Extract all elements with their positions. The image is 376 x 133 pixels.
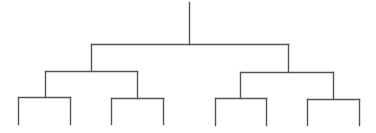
tree-diagram (0, 0, 376, 133)
tree-diagram-svg (0, 0, 376, 133)
